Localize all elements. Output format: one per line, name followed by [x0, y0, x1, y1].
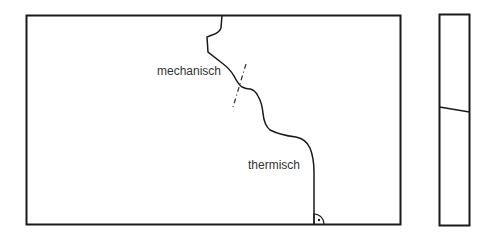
thermal-label: thermisch [248, 158, 300, 172]
side-view-crack-line [440, 107, 470, 112]
crack-diagram [0, 0, 491, 245]
crack-path [207, 15, 314, 224]
specimen-front-view [27, 16, 401, 225]
specimen-side-view [440, 15, 470, 226]
right-angle-dot-icon [318, 219, 320, 221]
mechanical-label: mechanisch [157, 64, 221, 78]
